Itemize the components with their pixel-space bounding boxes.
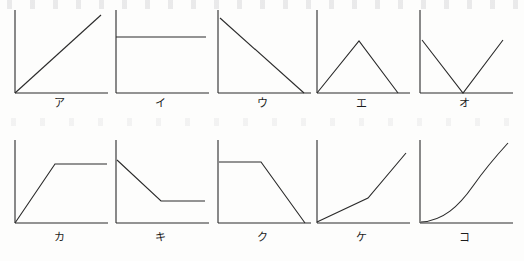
chart-label-ke: ケ (310, 232, 412, 244)
chart-panel-i[interactable] (109, 6, 211, 102)
chart-panel-ku[interactable] (211, 136, 313, 232)
chart-label-ku: ク (211, 232, 313, 244)
chart-panel-u[interactable] (211, 6, 313, 102)
chart-label-i: イ (109, 98, 211, 110)
chart-panel-e[interactable] (310, 6, 412, 102)
chart-label-e: エ (310, 98, 412, 110)
chart-grid: ア イ (0, 0, 524, 261)
chart-label-ka: カ (8, 232, 110, 244)
chart-panel-ka[interactable] (8, 136, 110, 232)
chart-panel-a[interactable] (8, 6, 110, 102)
chart-label-ki: キ (109, 232, 211, 244)
chart-label-o: オ (413, 98, 515, 110)
chart-panel-ke[interactable] (310, 136, 412, 232)
chart-label-a: ア (8, 98, 110, 110)
chart-label-u: ウ (211, 98, 313, 110)
chart-panel-o[interactable] (413, 6, 515, 102)
chart-panel-ko[interactable] (413, 136, 515, 232)
chart-label-ko: コ (413, 232, 515, 244)
chart-panel-ki[interactable] (109, 136, 211, 232)
worksheet-page: ア イ (0, 0, 524, 261)
